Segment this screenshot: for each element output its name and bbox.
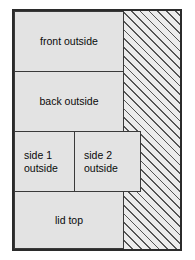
- part-side-2-outside: side 2 outside: [74, 131, 141, 192]
- part-lid-top-label: lid top: [15, 214, 123, 227]
- part-back-outside-label: back outside: [15, 95, 123, 108]
- part-front-outside-label: front outside: [15, 35, 123, 48]
- part-side-1-outside-label: side 1 outside: [15, 149, 74, 175]
- cutting-layout-diagram: front outside back outside side 1 outsid…: [0, 0, 195, 260]
- part-back-outside: back outside: [14, 71, 124, 132]
- part-lid-top: lid top: [14, 191, 124, 249]
- part-side-1-outside: side 1 outside: [14, 131, 75, 192]
- waste-hatch-region: [123, 11, 180, 249]
- part-front-outside: front outside: [14, 11, 124, 72]
- sheet-outline: front outside back outside side 1 outsid…: [12, 9, 182, 251]
- part-side-2-outside-label: side 2 outside: [75, 149, 140, 175]
